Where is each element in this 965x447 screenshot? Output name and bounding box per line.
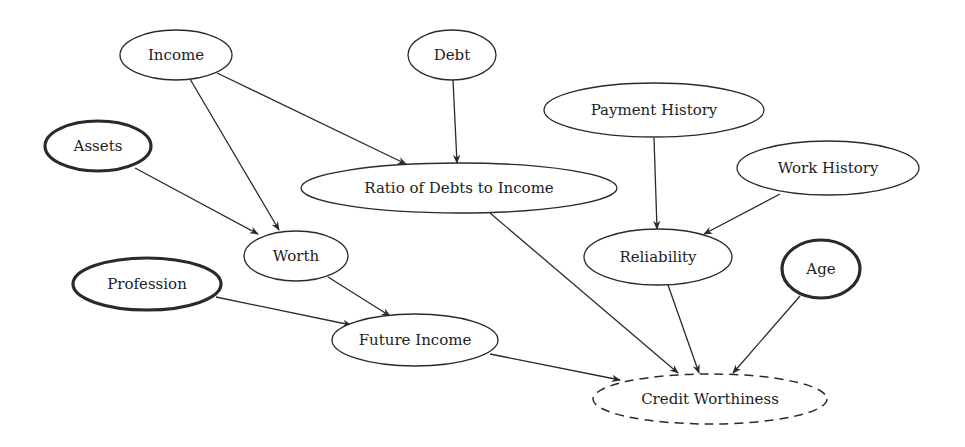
node-worth: Worth [244,231,348,281]
credit-worthiness-network: IncomeDebtAssetsRatio of Debts to Income… [0,0,965,447]
node-label: Future Income [359,331,472,349]
node-reliability: Reliability [584,229,732,285]
node-payment-history: Payment History [544,83,764,137]
edge-payment-history-to-reliability [654,138,657,229]
edge-reliability-to-credit-worthiness [668,285,699,373]
node-work-history: Work History [737,141,919,195]
node-credit-worthiness: Credit Worthiness [593,374,827,424]
node-label: Credit Worthiness [641,390,779,408]
node-label: Ratio of Debts to Income [364,179,554,197]
edge-work-history-to-reliability [704,194,780,234]
nodes-layer: IncomeDebtAssetsRatio of Debts to Income… [45,30,919,424]
node-label: Profession [107,275,187,293]
node-label: Payment History [591,101,718,119]
edge-income-to-worth [190,79,279,230]
node-label: Worth [273,247,320,265]
node-label: Assets [73,137,123,155]
edge-income-to-ratio [217,73,406,164]
node-label: Age [805,260,835,278]
node-profession: Profession [73,258,221,310]
node-income: Income [120,30,232,80]
node-label: Work History [778,159,879,177]
node-ratio: Ratio of Debts to Income [301,163,617,213]
node-label: Debt [434,46,471,64]
node-label: Reliability [619,248,697,266]
node-future-income: Future Income [332,314,498,366]
edge-assets-to-worth [135,168,258,234]
edge-worth-to-future-income [328,277,390,316]
node-label: Income [148,46,204,64]
edge-age-to-credit-worthiness [733,296,800,373]
edge-debt-to-ratio [453,80,457,163]
edge-profession-to-future-income [216,297,351,325]
node-debt: Debt [408,30,496,80]
edge-future-income-to-credit-worthiness [490,354,620,380]
node-assets: Assets [45,121,151,171]
node-age: Age [782,240,860,298]
